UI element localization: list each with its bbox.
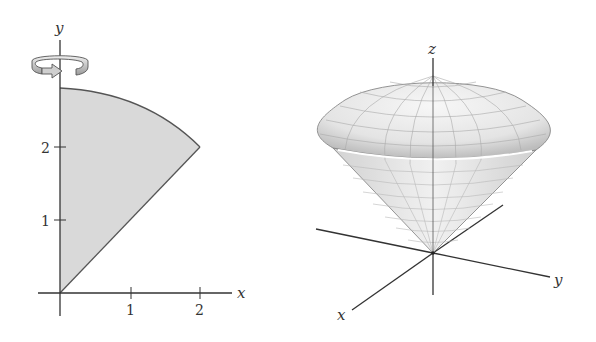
cone-surface [333, 148, 536, 253]
y-axis-label: y [54, 19, 64, 37]
x-axis-label-3d: x [337, 306, 346, 324]
x-tick-label-2: 2 [195, 302, 204, 318]
shaded-region [60, 88, 200, 293]
y-tick-label-1: 1 [41, 213, 50, 229]
y-axis-3d-front [433, 253, 550, 277]
x-tick-label-1: 1 [126, 302, 135, 318]
left-plot: 1 2 1 2 x y [32, 19, 246, 318]
spherical-cap-surface [317, 83, 550, 159]
x-axis-label: x [237, 284, 246, 302]
figure-canvas: 1 2 1 2 x y [0, 0, 596, 342]
x-axis-3d-front [352, 253, 433, 310]
y-axis-label-3d: y [553, 271, 563, 289]
right-plot: z y x [316, 40, 563, 324]
z-axis-label: z [427, 40, 436, 58]
y-tick-label-2: 2 [41, 140, 50, 156]
origin-point [431, 251, 435, 255]
